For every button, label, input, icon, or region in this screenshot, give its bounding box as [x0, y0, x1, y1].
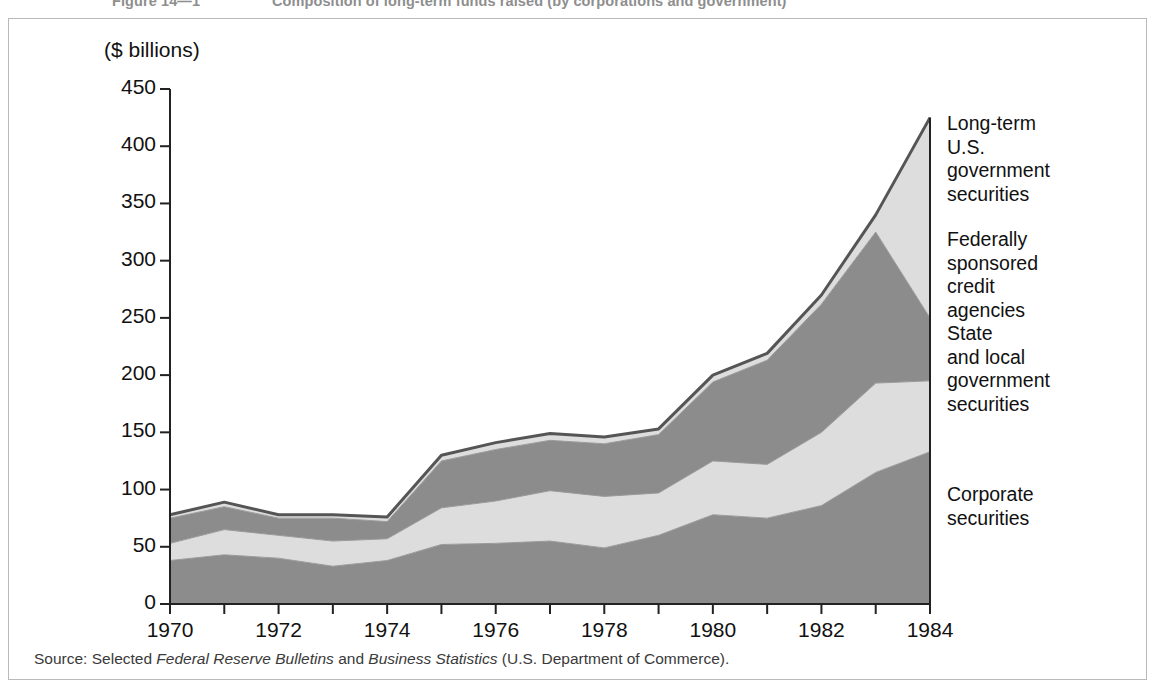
series-label-state_local: State and local government securities [947, 322, 1050, 416]
x-tick-label-1980: 1980 [673, 618, 753, 642]
series-label-corporate: Corporate securities [947, 483, 1034, 530]
y-tick-label-100: 100 [92, 476, 156, 500]
source-middle: and [334, 650, 368, 667]
source-italic-2: Business Statistics [368, 650, 497, 667]
series-label-us_government: Long-term U.S. government securities [947, 112, 1050, 206]
source-prefix: Source: Selected [34, 650, 156, 667]
x-tick-label-1982: 1982 [781, 618, 861, 642]
x-tick-label-1976: 1976 [456, 618, 536, 642]
source-note: Source: Selected Federal Reserve Bulleti… [34, 650, 729, 668]
y-tick-label-200: 200 [92, 361, 156, 385]
x-tick-label-1972: 1972 [239, 618, 319, 642]
x-tick-label-1970: 1970 [130, 618, 210, 642]
y-tick-label-400: 400 [92, 132, 156, 156]
y-tick-label-250: 250 [92, 304, 156, 328]
area-series-group [170, 118, 930, 604]
y-tick-label-350: 350 [92, 189, 156, 213]
y-axis-unit-label: ($ billions) [104, 38, 200, 62]
y-tick-label-150: 150 [92, 418, 156, 442]
y-tick-label-450: 450 [92, 75, 156, 99]
y-tick-label-50: 50 [92, 533, 156, 557]
x-tick-label-1978: 1978 [564, 618, 644, 642]
source-italic-1: Federal Reserve Bulletins [156, 650, 333, 667]
series-label-federal_agencies: Federally sponsored credit agencies [947, 228, 1038, 322]
x-tick-label-1974: 1974 [347, 618, 427, 642]
source-suffix: (U.S. Department of Commerce). [498, 650, 730, 667]
chart-area: ($ billions) 050100150200250300350400450… [0, 0, 1155, 692]
y-tick-label-0: 0 [92, 590, 156, 614]
y-tick-label-300: 300 [92, 247, 156, 271]
x-tick-label-1984: 1984 [890, 618, 970, 642]
